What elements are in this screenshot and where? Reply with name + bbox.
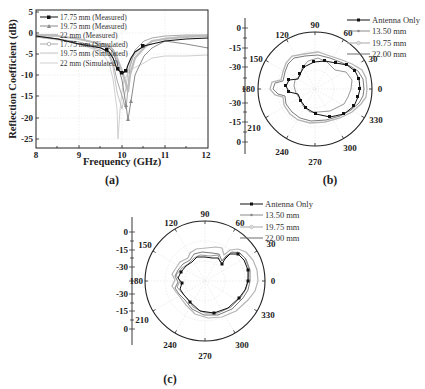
svg-text:0: 0 <box>378 84 383 94</box>
chart-b-panel-label: (b) <box>323 173 338 187</box>
chart-a-y-axis-label: Reflection Coefficient (dB) <box>7 19 19 139</box>
chart-c-legend: Antenna Only 13.50 mm 19.75 mm 22.00 mm <box>240 199 314 243</box>
svg-text:19.75 mm (Measured): 19.75 mm (Measured) <box>60 22 127 31</box>
legend-item-19-75-simulated: 19.75 mm (Simulated) <box>40 49 128 58</box>
chart-a-legend: 17.75 mm (Measured) 19.75 mm (Measured) … <box>40 13 128 68</box>
svg-text:300: 300 <box>343 143 357 153</box>
svg-text:150: 150 <box>249 54 263 64</box>
svg-text:-30: -30 <box>116 289 128 299</box>
legend-item-19-75: 19.75 mm <box>240 222 300 232</box>
chart-b-rings <box>258 32 372 146</box>
svg-text:180: 180 <box>242 84 256 94</box>
legend-item-22-00: 22.00 mm <box>347 49 407 59</box>
x-tick-label: 12 <box>202 150 212 160</box>
svg-text:210: 210 <box>135 315 149 325</box>
svg-text:0: 0 <box>124 227 129 237</box>
svg-text:-15: -15 <box>229 117 241 127</box>
svg-text:210: 210 <box>247 123 261 133</box>
svg-text:-30: -30 <box>116 262 128 272</box>
svg-text:270: 270 <box>308 157 322 167</box>
svg-text:22 mm (Measured): 22 mm (Measured) <box>60 31 118 40</box>
legend-item-19-75-measured: 19.75 mm (Measured) <box>40 22 127 31</box>
legend-item-19-75: 19.75 mm <box>347 38 407 48</box>
svg-text:-30: -30 <box>229 62 241 72</box>
svg-text:13.50 mm: 13.50 mm <box>372 26 407 36</box>
x-tick-label: 9 <box>77 150 82 160</box>
svg-text:0: 0 <box>237 23 242 33</box>
chart-a: 5 0 -5 -10 -15 -20 -25 8 9 10 11 12 Freq… <box>7 7 211 187</box>
svg-text:240: 240 <box>163 340 177 350</box>
svg-text:22 mm (Simulated): 22 mm (Simulated) <box>60 59 119 68</box>
y-tick-label: -20 <box>21 113 33 123</box>
y-tick-label: -25 <box>21 134 33 144</box>
chart-a-y-tick-labels: 5 0 -5 -10 -15 -20 -25 <box>21 7 34 144</box>
svg-text:0: 0 <box>237 137 242 147</box>
svg-text:330: 330 <box>369 115 383 125</box>
svg-text:0: 0 <box>271 276 276 286</box>
svg-text:19.75 mm (Simulated): 19.75 mm (Simulated) <box>60 49 128 58</box>
svg-text:19.75 mm: 19.75 mm <box>372 38 407 48</box>
legend-item-17-75-simulated: 17.75 mm (Simulated) <box>40 40 128 49</box>
y-tick-label: -15 <box>21 91 33 101</box>
svg-text:-30: -30 <box>229 98 241 108</box>
svg-text:270: 270 <box>198 351 212 361</box>
chart-c: 90 60 30 0 330 300 270 240 210 150 120 <box>116 199 314 386</box>
svg-text:22.00 mm: 22.00 mm <box>372 49 407 59</box>
x-tick-label: 8 <box>34 150 39 160</box>
legend-item-antenna-only: Antenna Only <box>347 15 421 25</box>
chart-c-panel-label: (c) <box>163 372 176 386</box>
figure: 5 0 -5 -10 -15 -20 -25 8 9 10 11 12 Freq… <box>0 0 425 389</box>
svg-text:-15: -15 <box>116 306 128 316</box>
y-tick-label: -5 <box>26 49 34 59</box>
y-tick-label: -10 <box>21 70 33 80</box>
legend-item-22-simulated: 22 mm (Simulated) <box>40 59 119 68</box>
svg-text:-15: -15 <box>116 245 128 255</box>
svg-text:17.75 mm (Measured): 17.75 mm (Measured) <box>60 13 127 22</box>
legend-item-13-50: 13.50 mm <box>347 26 407 36</box>
legend-item-17-75-measured: 17.75 mm (Measured) <box>40 13 127 22</box>
svg-text:19.75 mm: 19.75 mm <box>265 222 300 232</box>
chart-b: 90 60 30 0 330 300 270 240 210 150 120 <box>229 15 421 187</box>
svg-text:240: 240 <box>275 147 289 157</box>
chart-a-panel-label: (a) <box>105 173 119 187</box>
svg-text:330: 330 <box>261 310 275 320</box>
svg-text:180: 180 <box>130 276 144 286</box>
svg-text:120: 120 <box>275 30 289 40</box>
svg-text:90: 90 <box>311 20 321 30</box>
svg-text:90: 90 <box>201 209 211 219</box>
x-tick-label: 11 <box>161 150 170 160</box>
svg-text:-15: -15 <box>229 43 241 53</box>
chart-c-angle-labels: 90 60 30 0 330 300 270 240 210 150 120 <box>135 209 276 361</box>
svg-text:120: 120 <box>164 218 178 228</box>
svg-text:22.00 mm: 22.00 mm <box>265 233 300 243</box>
y-tick-label: 5 <box>29 7 34 17</box>
svg-text:150: 150 <box>138 240 152 250</box>
chart-a-x-axis-label: Frequency (GHz) <box>83 156 162 168</box>
svg-text:Antenna Only: Antenna Only <box>265 199 314 209</box>
legend-item-13-50: 13.50 mm <box>240 210 300 220</box>
y-tick-label: 0 <box>29 28 34 38</box>
svg-text:0: 0 <box>124 324 129 334</box>
svg-text:17.75 mm (Simulated): 17.75 mm (Simulated) <box>60 40 128 49</box>
svg-text:Antenna Only: Antenna Only <box>372 15 421 25</box>
legend-item-22-00: 22.00 mm <box>240 233 300 243</box>
legend-item-antenna-only: Antenna Only <box>240 199 314 209</box>
svg-text:300: 300 <box>235 340 249 350</box>
svg-text:13.50 mm: 13.50 mm <box>265 210 300 220</box>
svg-text:60: 60 <box>344 28 354 38</box>
